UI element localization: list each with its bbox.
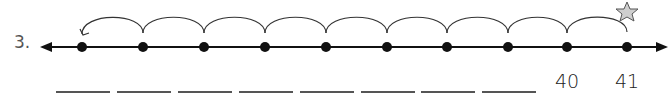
jump-arc: [387, 17, 447, 33]
jump-arc: [567, 17, 627, 33]
point-dot: [622, 42, 632, 52]
answer-blank[interactable]: [482, 91, 536, 93]
right-arrow-icon: [656, 42, 668, 52]
jump-arc: [82, 17, 143, 34]
jump-arcs: [82, 17, 627, 34]
star-icon: [616, 2, 638, 21]
answer-blank[interactable]: [178, 91, 232, 93]
answer-blank[interactable]: [421, 91, 475, 93]
jump-arc: [447, 17, 508, 33]
jump-arc: [143, 17, 204, 33]
point-label: 40: [555, 70, 579, 92]
point-dot: [562, 42, 572, 52]
point-dot: [382, 42, 392, 52]
answer-blank[interactable]: [56, 91, 110, 93]
answer-blank[interactable]: [361, 91, 415, 93]
point-dot: [138, 42, 148, 52]
point-label: 41: [615, 70, 639, 92]
jump-arc: [326, 17, 387, 33]
point-dot: [199, 42, 209, 52]
jump-arc: [508, 17, 567, 33]
point-dot: [442, 42, 452, 52]
jump-arc: [265, 17, 326, 33]
answer-blank[interactable]: [239, 91, 293, 93]
point-dot: [503, 42, 513, 52]
answer-blank[interactable]: [300, 91, 354, 93]
point-dot: [77, 42, 87, 52]
jump-arrowhead-icon: [80, 29, 89, 35]
left-arrow-icon: [40, 42, 52, 52]
point-dot: [321, 42, 331, 52]
jump-arc: [204, 17, 265, 33]
answer-blank[interactable]: [117, 91, 171, 93]
point-dot: [260, 42, 270, 52]
